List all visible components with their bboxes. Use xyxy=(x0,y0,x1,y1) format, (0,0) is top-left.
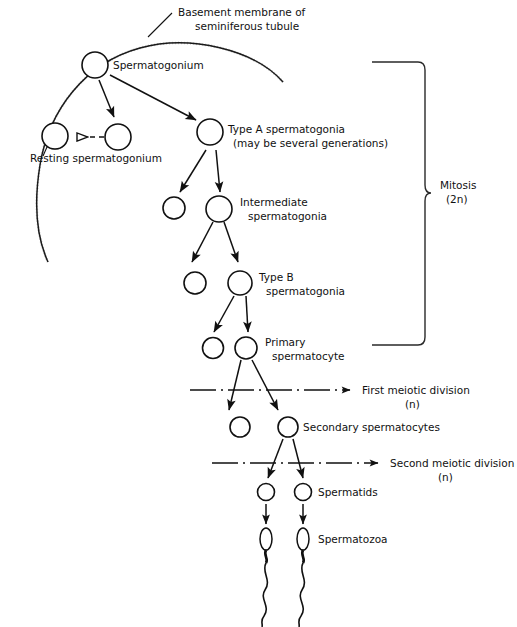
type-a-label-line1: Type A spermatogonia xyxy=(227,123,345,135)
arrow-spermatogonium-to-dividing xyxy=(99,80,114,117)
cell-type-a-spermatogonia xyxy=(197,119,223,145)
arrow-spermatogonium-to-type-a xyxy=(110,75,196,120)
cell-type-b-spermatogonia xyxy=(228,271,252,295)
cell-intermediate-sibling xyxy=(163,197,185,219)
spermatozoon-left xyxy=(260,528,272,627)
first-meiotic-label-line1: First meiotic division xyxy=(362,384,470,396)
arrow-type-a-to-left xyxy=(180,150,206,192)
second-meiotic-label-line2: (n) xyxy=(438,471,453,483)
cell-dividing-spermatogonium xyxy=(105,124,131,150)
spermatids-label: Spermatids xyxy=(318,486,378,498)
arrow-intermediate-to-left xyxy=(192,222,213,262)
cell-primary-spermatocyte xyxy=(235,337,257,359)
spermatozoa-label: Spermatozoa xyxy=(318,533,388,545)
arrow-type-b-to-primary xyxy=(246,296,248,332)
arrow-type-b-to-left xyxy=(214,296,234,332)
resting-spermatogonium-label: Resting spermatogonium xyxy=(30,152,162,164)
cell-primary-sibling xyxy=(203,338,224,359)
cell-spermatid-left xyxy=(258,484,275,501)
cell-resting-spermatogonium xyxy=(42,123,68,149)
basement-membrane-label-line1: Basement membrane of xyxy=(178,6,306,18)
mitosis-label-line2: (2n) xyxy=(446,193,468,205)
arrow-primary-to-secondary-left xyxy=(229,360,241,410)
spermatogonium-label: Spermatogonium xyxy=(113,59,204,71)
type-a-label-line2: (may be several generations) xyxy=(233,137,388,149)
cell-secondary-spermatocyte-left xyxy=(230,417,250,437)
intermediate-label-line1: Intermediate xyxy=(240,196,308,208)
arrow-secondary-to-spermatid-left xyxy=(268,439,283,478)
mitosis-label-line1: Mitosis xyxy=(440,179,476,191)
cell-type-b-sibling xyxy=(184,272,206,294)
intermediate-label-line2: spermatogonia xyxy=(248,210,327,222)
first-meiotic-label-line2: (n) xyxy=(405,398,420,410)
primary-label-line2: spermatocyte xyxy=(272,350,345,362)
spermatogenesis-diagram: Basement membrane of seminiferous tubule… xyxy=(0,0,517,627)
arrow-type-a-to-intermediate xyxy=(216,150,220,192)
arrow-secondary-to-spermatid-right xyxy=(293,439,303,478)
basement-membrane-label-line2: seminiferous tubule xyxy=(195,20,299,32)
mitosis-bracket xyxy=(372,62,431,345)
arrow-intermediate-to-type-b xyxy=(224,222,238,262)
secondary-spermatocytes-label: Secondary spermatocytes xyxy=(303,421,440,433)
second-meiotic-label-line1: Second meiotic division xyxy=(390,457,514,469)
spermatozoon-right xyxy=(297,528,309,627)
basement-membrane-leader xyxy=(148,13,172,37)
type-b-label-line1: Type B xyxy=(258,271,294,283)
cell-intermediate-spermatogonia xyxy=(206,196,232,222)
type-b-label-line2: spermatogonia xyxy=(266,285,345,297)
cell-secondary-spermatocyte-right xyxy=(278,417,298,437)
cell-spermatid-right xyxy=(295,484,312,501)
cell-spermatogonium xyxy=(82,52,108,78)
primary-label-line1: Primary xyxy=(265,336,306,348)
arrow-primary-to-secondary-right xyxy=(252,360,278,410)
